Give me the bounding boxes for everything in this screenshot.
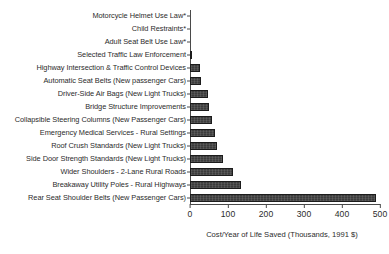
bar-row: Breakaway Utility Poles - Rural Highways [190, 178, 380, 191]
x-tick: 500 [373, 204, 387, 219]
plot-area: Motorcycle Helmet Use Law*Child Restrain… [190, 10, 380, 204]
category-tick [187, 81, 190, 82]
bar-row: Driver-Side Air Bags (New Light Trucks) [190, 88, 380, 101]
x-tick: 200 [259, 204, 273, 219]
x-tick-mark [304, 204, 305, 208]
bar-row: Motorcycle Helmet Use Law* [190, 10, 380, 23]
x-tick-mark [266, 204, 267, 208]
x-tick-label: 500 [373, 209, 387, 219]
bar-row: Adult Seat Belt Use Law* [190, 36, 380, 49]
bar-row: Automatic Seat Belts (New passenger Cars… [190, 75, 380, 88]
bar [190, 77, 201, 85]
category-label: Automatic Seat Belts (New passenger Cars… [43, 77, 186, 85]
bar-row: Child Restraints* [190, 23, 380, 36]
bar [190, 116, 212, 124]
bar [190, 194, 376, 202]
category-tick [187, 184, 190, 185]
bar [190, 103, 209, 111]
bar-rows: Motorcycle Helmet Use Law*Child Restrain… [190, 10, 380, 204]
bar [190, 168, 233, 176]
x-axis-ticks: 0100200300400500 [190, 204, 380, 224]
bar [190, 129, 215, 137]
x-tick-label: 0 [188, 209, 193, 219]
category-tick [187, 42, 190, 43]
bar-row: Wider Shoulders - 2-Lane Rural Roads [190, 165, 380, 178]
x-tick: 0 [188, 204, 193, 219]
category-tick [187, 197, 190, 198]
category-tick [187, 132, 190, 133]
category-tick [187, 171, 190, 172]
bar [190, 155, 223, 163]
x-axis-label: Cost/Year of Life Saved (Thousands, 1991… [187, 230, 377, 239]
bar-row: Side Door Strength Standards (New Light … [190, 152, 380, 165]
category-label: Motorcycle Helmet Use Law* [92, 12, 186, 20]
category-tick [187, 55, 190, 56]
x-tick-mark [380, 204, 381, 208]
category-tick [187, 107, 190, 108]
x-tick-mark [228, 204, 229, 208]
bar [190, 64, 200, 72]
category-label: Adult Seat Belt Use Law* [105, 38, 186, 46]
bar-row: Selected Traffic Law Enforcement [190, 49, 380, 62]
category-tick [187, 68, 190, 69]
category-label: Driver-Side Air Bags (New Light Trucks) [58, 90, 186, 98]
bar-row: Bridge Structure Improvements [190, 101, 380, 114]
category-label: Bridge Structure Improvements [85, 103, 186, 111]
category-label: Highway Intersection & Traffic Control D… [36, 64, 186, 72]
x-tick-label: 300 [297, 209, 311, 219]
category-label: Child Restraints* [132, 25, 186, 33]
category-tick [187, 16, 190, 17]
bar-row: Rear Seat Shoulder Belts (New Passenger … [190, 191, 380, 204]
x-tick: 100 [221, 204, 235, 219]
bar-row: Highway Intersection & Traffic Control D… [190, 62, 380, 75]
bar-chart: Motorcycle Helmet Use Law*Child Restrain… [0, 0, 389, 254]
category-tick [187, 29, 190, 30]
x-tick-label: 100 [221, 209, 235, 219]
category-tick [187, 119, 190, 120]
category-tick [187, 94, 190, 95]
x-tick-label: 400 [335, 209, 349, 219]
bar [190, 51, 192, 59]
x-tick: 300 [297, 204, 311, 219]
category-label: Emergency Medical Services - Rural Setti… [40, 129, 186, 137]
category-label: Breakaway Utility Poles - Rural Highways [52, 181, 186, 189]
bar [190, 181, 241, 189]
category-label: Side Door Strength Standards (New Light … [26, 155, 186, 163]
bar-row: Emergency Medical Services - Rural Setti… [190, 126, 380, 139]
category-label: Selected Traffic Law Enforcement [77, 51, 186, 59]
bar [190, 90, 208, 98]
bar-row: Roof Crush Standards (New Light Trucks) [190, 139, 380, 152]
x-tick-label: 200 [259, 209, 273, 219]
bar [190, 142, 217, 150]
category-tick [187, 145, 190, 146]
category-label: Roof Crush Standards (New Light Trucks) [51, 142, 186, 150]
category-label: Rear Seat Shoulder Belts (New Passenger … [28, 194, 186, 202]
category-label: Wider Shoulders - 2-Lane Rural Roads [60, 168, 186, 176]
category-label: Collapsible Steering Columns (New Passen… [15, 116, 186, 124]
bar-row: Collapsible Steering Columns (New Passen… [190, 114, 380, 127]
x-tick-mark [342, 204, 343, 208]
category-tick [187, 158, 190, 159]
x-tick: 400 [335, 204, 349, 219]
x-tick-mark [190, 204, 191, 208]
